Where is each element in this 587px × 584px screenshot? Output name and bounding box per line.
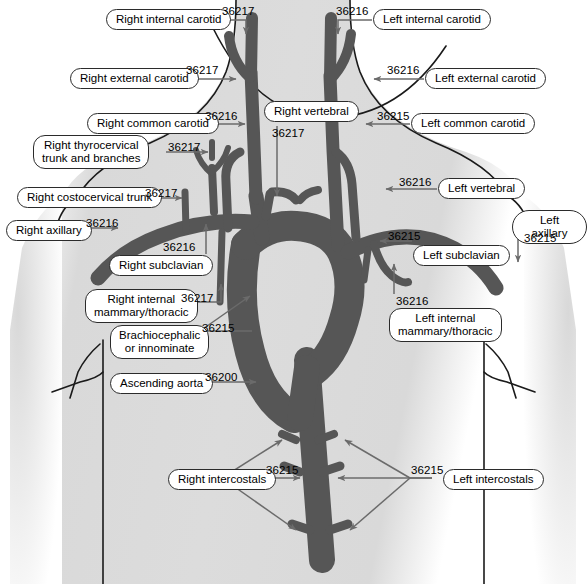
- code-right-internal-mammary: 36217: [181, 292, 213, 304]
- label-left-vertebral[interactable]: Left vertebral: [438, 178, 525, 199]
- label-left-internal-carotid[interactable]: Left internal carotid: [373, 9, 491, 30]
- leader-left-intercostal-down: [350, 478, 410, 530]
- leader-left-intercostal-up: [345, 440, 410, 478]
- label-left-internal-mammary[interactable]: Left internal mammary/thoracic: [389, 308, 502, 342]
- label-left-external-carotid[interactable]: Left external carotid: [425, 68, 546, 89]
- leader-left-internal-carotid: [338, 20, 372, 34]
- label-right-internal-carotid[interactable]: Right internal carotid: [106, 9, 231, 30]
- code-right-axillary: 36216: [86, 217, 118, 229]
- label-right-vertebral[interactable]: Right vertebral: [264, 101, 359, 122]
- label-left-subclavian[interactable]: Left subclavian: [413, 245, 510, 266]
- code-right-costocervical: 36217: [145, 187, 177, 199]
- code-left-axillary: 36215: [524, 232, 556, 244]
- label-left-common-carotid[interactable]: Left common carotid: [411, 113, 535, 134]
- code-brachiocephalic: 36215: [202, 322, 234, 334]
- label-ascending-aorta[interactable]: Ascending aorta: [110, 373, 213, 394]
- code-left-common-carotid: 36215: [377, 110, 409, 122]
- code-left-external-carotid: 36216: [387, 64, 419, 76]
- code-ascending-aorta: 36200: [205, 371, 237, 383]
- code-left-vertebral: 36216: [399, 176, 431, 188]
- code-right-common-carotid: 36216: [205, 110, 237, 122]
- diagram-artboard: 36217 36216 36217 36216 36216 36215 3621…: [0, 0, 587, 584]
- label-right-external-carotid[interactable]: Right external carotid: [70, 68, 199, 89]
- label-left-intercostals[interactable]: Left intercostals: [443, 469, 544, 490]
- code-right-vertebral: 36217: [272, 127, 304, 139]
- code-left-intercostals: 36215: [411, 464, 443, 476]
- label-right-subclavian[interactable]: Right subclavian: [109, 255, 213, 276]
- code-left-subclavian: 36215: [388, 230, 420, 242]
- label-brachiocephalic[interactable]: Brachiocephalic or innominate: [110, 325, 209, 359]
- label-right-axillary[interactable]: Right axillary: [6, 220, 92, 241]
- label-right-costocervical[interactable]: Right costocervical trunk: [17, 187, 162, 208]
- code-left-internal-mammary: 36216: [396, 295, 428, 307]
- label-right-thyrocervical[interactable]: Right thyrocervical trunk and branches: [33, 135, 149, 169]
- code-left-internal-carotid: 36216: [336, 5, 368, 17]
- arterial-anatomy-diagram: 36217 36216 36217 36216 36216 36215 3621…: [0, 0, 587, 584]
- code-right-thyrocervical: 36217: [168, 141, 200, 153]
- code-right-intercostals: 36215: [266, 464, 298, 476]
- code-right-external-carotid: 36217: [186, 64, 218, 76]
- label-right-intercostals[interactable]: Right intercostals: [168, 469, 276, 490]
- label-right-common-carotid[interactable]: Right common carotid: [87, 113, 219, 134]
- code-right-internal-carotid: 36217: [222, 5, 254, 17]
- code-right-subclavian: 36216: [163, 241, 195, 253]
